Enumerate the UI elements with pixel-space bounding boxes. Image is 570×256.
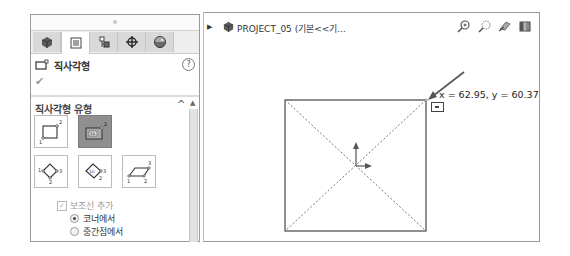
corner-rectangle-icon: 1 2: [35, 116, 67, 147]
collapse-caret-icon[interactable]: ^: [177, 99, 185, 110]
svg-text:1: 1: [38, 167, 41, 173]
svg-text:2: 2: [104, 121, 107, 127]
radio-button[interactable]: [70, 227, 79, 236]
feature-title-row: 직사각형 ?: [35, 57, 195, 73]
svg-text:1: 1: [39, 139, 42, 145]
scroll-up-arrow-icon[interactable]: ▲: [190, 99, 195, 107]
3-point-center-rectangle-icon: 1o 3 2: [79, 156, 111, 187]
3-point-corner-rectangle-icon: 1 3 2: [35, 156, 67, 187]
tab-dimxpert-manager[interactable]: [118, 32, 146, 52]
radio-from-midpoints[interactable]: 중간점에서: [70, 225, 123, 238]
tab-configuration-manager[interactable]: [90, 32, 118, 52]
svg-text:1: 1: [127, 178, 130, 184]
checkbox-box[interactable]: ✓: [57, 201, 67, 211]
configuration-icon: [97, 35, 111, 49]
cursor-coordinates: x = 62.95, y = 60.37: [439, 89, 539, 100]
property-manager-panel: 직사각형 ? ✔ 직사각형 유형 ^ ▲ 1 2 1o 2 1: [30, 14, 200, 242]
center-rectangle-icon: 1o 2: [79, 116, 111, 147]
center-rectangle-cursor-icon: [431, 102, 444, 112]
svg-text:2: 2: [59, 119, 62, 125]
panel-scrollbar[interactable]: [189, 109, 198, 242]
tab-display-manager[interactable]: [146, 32, 174, 52]
section-title-rectangle-type: 직사각형 유형: [35, 101, 92, 116]
svg-text:3: 3: [103, 168, 106, 174]
sketch-canvas[interactable]: [204, 13, 541, 243]
svg-text:3: 3: [59, 168, 62, 174]
feature-title: 직사각형: [54, 58, 90, 73]
svg-text:2: 2: [144, 178, 147, 184]
manager-tabs: [31, 31, 199, 54]
parallelogram-icon: 1 2 3: [123, 156, 155, 187]
radio-label: 중간점에서: [83, 225, 123, 238]
3-point-corner-rectangle-button[interactable]: 1 3 2: [34, 155, 68, 188]
grip-dot: [113, 20, 117, 24]
appearance-icon: [153, 35, 167, 49]
svg-text:1o: 1o: [90, 131, 96, 136]
add-construction-lines-checkbox[interactable]: ✓ 보조선 추가: [57, 199, 113, 212]
radio-label: 코너에서: [83, 212, 115, 225]
help-icon[interactable]: ?: [182, 58, 195, 71]
corner-rectangle-button[interactable]: 1 2: [34, 115, 68, 148]
tab-property-manager[interactable]: [61, 32, 90, 54]
radio-from-corners[interactable]: 코너에서: [70, 212, 115, 225]
part-tree-icon: [40, 35, 54, 49]
svg-text:1o: 1o: [89, 169, 95, 174]
crosshair-icon: [125, 35, 139, 49]
panel-grip[interactable]: [31, 15, 199, 31]
rectangle-feature-icon: [35, 59, 49, 71]
parallelogram-button[interactable]: 1 2 3: [122, 155, 156, 188]
graphics-viewport[interactable]: ▶ PROJECT_05 (기본<<기...: [203, 12, 540, 242]
svg-text:2: 2: [49, 179, 52, 185]
3-point-center-rectangle-button[interactable]: 1o 3 2: [78, 155, 112, 188]
radio-button[interactable]: [70, 214, 79, 223]
checkbox-label: 보조선 추가: [70, 199, 113, 212]
svg-text:3: 3: [148, 160, 151, 166]
origin-icon: [353, 142, 372, 169]
section-divider: [31, 95, 199, 97]
tab-feature-manager[interactable]: [33, 32, 61, 52]
property-list-icon: [69, 36, 83, 50]
ok-checkmark-button[interactable]: ✔: [35, 75, 44, 88]
center-rectangle-button[interactable]: 1o 2: [78, 115, 112, 148]
svg-text:2: 2: [99, 175, 102, 181]
